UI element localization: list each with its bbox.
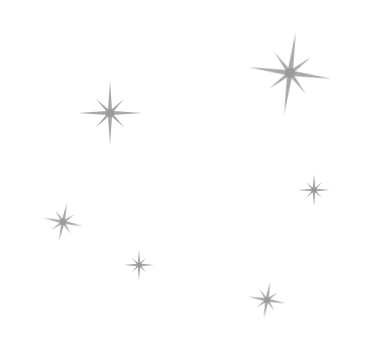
eight-point-star-icon [243, 26, 338, 121]
sparkle-large-top-right [243, 26, 338, 121]
eight-point-star-icon [124, 250, 154, 280]
sparkle-tiny-bottom-left [124, 250, 154, 280]
eight-point-star-icon [245, 278, 289, 322]
eight-point-star-icon [78, 81, 142, 145]
sparkle-small-left [39, 198, 86, 245]
sparkle-small-bottom-right [245, 278, 289, 322]
stars-layer [39, 26, 337, 322]
sparkles-illustration [0, 0, 370, 360]
sparkle-medium-top-left [78, 81, 142, 145]
eight-point-star-icon [39, 198, 86, 245]
sparkle-canvas [0, 0, 370, 360]
sparkle-small-right [298, 174, 330, 206]
eight-point-star-icon [298, 174, 330, 206]
